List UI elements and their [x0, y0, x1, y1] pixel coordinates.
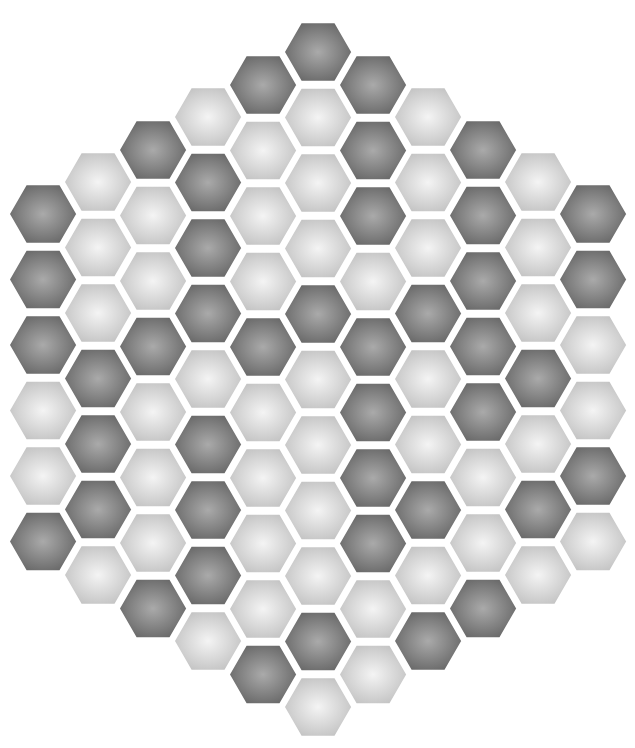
hex-cell-dark[interactable] [229, 645, 298, 705]
hex-cell-dark[interactable] [174, 480, 243, 540]
hex-cell-light[interactable] [174, 611, 243, 671]
hex-cell-light[interactable] [284, 546, 353, 606]
hex-cell-dark[interactable] [339, 55, 408, 115]
hex-cell-dark[interactable] [339, 383, 408, 443]
hex-cell-dark[interactable] [9, 184, 78, 244]
hex-cell-light[interactable] [119, 382, 188, 442]
hex-cell-dark[interactable] [449, 186, 518, 246]
hex-cell-light[interactable] [394, 349, 463, 409]
hex-cell-dark[interactable] [284, 22, 353, 82]
hexagon-shape-icon [504, 349, 573, 409]
hex-cell-light[interactable] [9, 446, 78, 506]
hex-cell-dark[interactable] [504, 480, 573, 540]
hex-cell-light[interactable] [64, 152, 133, 212]
hex-cell-light[interactable] [559, 381, 628, 441]
hex-cell-light[interactable] [64, 545, 133, 605]
hex-cell-dark[interactable] [504, 349, 573, 409]
hex-cell-dark[interactable] [394, 480, 463, 540]
hexagon-shape-icon [229, 645, 298, 705]
hex-cell-light[interactable] [284, 481, 353, 541]
hex-cell-dark[interactable] [64, 349, 133, 409]
hex-cell-light[interactable] [284, 219, 353, 279]
hex-cell-light[interactable] [119, 448, 188, 508]
hex-cell-dark[interactable] [284, 284, 353, 344]
hex-cell-dark[interactable] [449, 251, 518, 311]
hexagon-shape-icon [9, 315, 78, 375]
hex-cell-dark[interactable] [9, 512, 78, 572]
hex-cell-light[interactable] [394, 218, 463, 278]
hex-cell-dark[interactable] [449, 120, 518, 180]
hex-cell-dark[interactable] [174, 153, 243, 213]
hexagon-shape-icon [339, 252, 408, 312]
hex-cell-dark[interactable] [64, 414, 133, 474]
hex-cell-light[interactable] [229, 579, 298, 639]
hex-cell-light[interactable] [504, 414, 573, 474]
hexagon-shape-icon [449, 317, 518, 377]
hex-cell-light[interactable] [339, 645, 408, 705]
hex-cell-dark[interactable] [394, 284, 463, 344]
hex-cell-dark[interactable] [174, 546, 243, 606]
hex-cell-dark[interactable] [449, 382, 518, 442]
hex-cell-dark[interactable] [119, 120, 188, 180]
hex-cell-light[interactable] [284, 88, 353, 148]
hex-cell-dark[interactable] [449, 317, 518, 377]
hexagon-shape-icon [559, 381, 628, 441]
hex-cell-light[interactable] [504, 283, 573, 343]
hex-cell-light[interactable] [9, 381, 78, 441]
hex-cell-dark[interactable] [339, 317, 408, 377]
hex-cell-light[interactable] [174, 87, 243, 147]
hex-cell-dark[interactable] [64, 480, 133, 540]
hex-cell-dark[interactable] [229, 55, 298, 115]
hex-cell-light[interactable] [394, 87, 463, 147]
hex-cell-dark[interactable] [229, 317, 298, 377]
hexagon-shape-icon [284, 481, 353, 541]
hex-cell-light[interactable] [229, 448, 298, 508]
hex-cell-light[interactable] [284, 350, 353, 410]
hex-cell-light[interactable] [394, 415, 463, 475]
hex-cell-light[interactable] [229, 186, 298, 246]
hex-cell-light[interactable] [64, 218, 133, 278]
hex-cell-dark[interactable] [119, 579, 188, 639]
hex-cell-light[interactable] [449, 513, 518, 573]
hex-cell-light[interactable] [229, 252, 298, 312]
hex-cell-dark[interactable] [559, 184, 628, 244]
hex-cell-dark[interactable] [119, 317, 188, 377]
hex-cell-light[interactable] [284, 415, 353, 475]
hex-cell-light[interactable] [504, 218, 573, 278]
hex-cell-light[interactable] [174, 349, 243, 409]
hex-cell-dark[interactable] [339, 514, 408, 574]
hex-cell-light[interactable] [284, 153, 353, 213]
hex-cell-light[interactable] [504, 152, 573, 212]
hex-cell-dark[interactable] [339, 186, 408, 246]
hex-cell-dark[interactable] [559, 250, 628, 310]
hex-cell-light[interactable] [119, 186, 188, 246]
hex-cell-light[interactable] [119, 513, 188, 573]
hex-cell-light[interactable] [229, 121, 298, 181]
hex-cell-light[interactable] [449, 448, 518, 508]
hex-cell-dark[interactable] [284, 612, 353, 672]
hex-cell-dark[interactable] [174, 284, 243, 344]
hex-cell-light[interactable] [229, 514, 298, 574]
hex-cell-dark[interactable] [449, 579, 518, 639]
hex-cell-light[interactable] [339, 579, 408, 639]
hex-cell-dark[interactable] [174, 415, 243, 475]
hex-cell-light[interactable] [339, 252, 408, 312]
hex-cell-dark[interactable] [9, 315, 78, 375]
hex-cell-light[interactable] [119, 251, 188, 311]
hex-cell-dark[interactable] [174, 218, 243, 278]
hex-cell-dark[interactable] [559, 446, 628, 506]
hex-cell-light[interactable] [394, 546, 463, 606]
hex-cell-light[interactable] [559, 315, 628, 375]
hex-cell-dark[interactable] [9, 250, 78, 310]
hex-cell-dark[interactable] [339, 448, 408, 508]
hex-cell-dark[interactable] [394, 611, 463, 671]
hexagon-shape-icon [119, 513, 188, 573]
hex-cell-light[interactable] [504, 545, 573, 605]
hex-cell-light[interactable] [284, 677, 353, 737]
hexagon-shape-icon [394, 546, 463, 606]
hex-cell-light[interactable] [229, 383, 298, 443]
hex-cell-light[interactable] [64, 283, 133, 343]
hex-cell-light[interactable] [559, 512, 628, 572]
hex-cell-light[interactable] [394, 153, 463, 213]
hex-cell-dark[interactable] [339, 121, 408, 181]
